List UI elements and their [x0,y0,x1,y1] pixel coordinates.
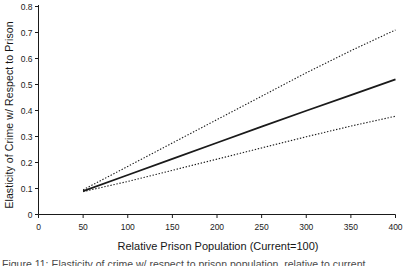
y-tick-label: 0.7 [21,28,33,38]
y-tick-label: 0.2 [21,158,33,168]
figure-panel: Elasticity of Crime w/ Respect to Prison… [0,0,404,266]
x-tick-label: 150 [165,222,179,232]
x-tick-label: 400 [388,222,402,232]
x-tick-label: 50 [78,222,88,232]
x-tick-label: 200 [210,222,224,232]
data-series-line [83,79,395,191]
data-series-layer [83,30,395,192]
figure-caption: Figure 11: Elasticity of crime w/ respec… [2,259,402,266]
y-tick-label: 0 [28,210,33,220]
x-tick-label: 0 [36,222,41,232]
y-tick-label: 0.5 [21,80,33,90]
y-tick-label: 0.4 [21,106,33,116]
x-tick-label: 100 [121,222,135,232]
x-axis-ticks: 050100150200250300350400 [36,215,403,232]
x-tick-label: 350 [344,222,358,232]
data-series-line [83,30,395,190]
x-tick-label: 300 [299,222,313,232]
y-tick-label: 0.6 [21,54,33,64]
data-series-line [83,116,395,191]
x-axis-label: Relative Prison Population (Current=100) [38,240,398,252]
y-tick-label: 0.1 [21,184,33,194]
y-tick-label: 0.3 [21,132,33,142]
y-tick-label: 0.8 [21,2,33,12]
chart-plot-area: 00.10.20.30.40.50.60.70.8 05010015020025… [0,0,404,240]
y-axis-ticks: 00.10.20.30.40.50.60.70.8 [21,2,39,220]
x-tick-label: 250 [255,222,269,232]
